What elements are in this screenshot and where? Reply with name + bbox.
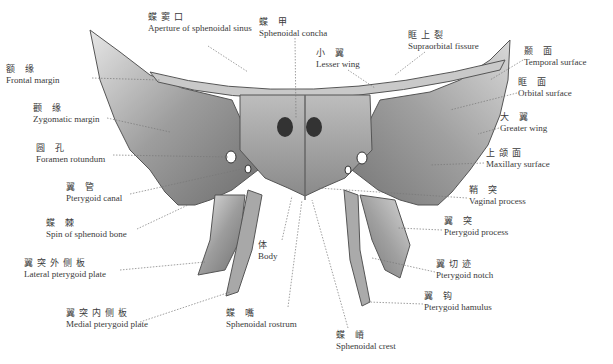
right-lateral-pterygoid-plate <box>360 195 410 278</box>
label-sphenoidal-rostrum: 蝶 嘴Sphenoidal rostrum <box>226 308 297 330</box>
label-greater-wing: 大 翼Greater wing <box>500 112 547 134</box>
label-pterygoid-notch: 翼切迹Pterygoid notch <box>436 259 493 281</box>
label-body: 体Body <box>258 240 278 262</box>
left-greater-wing <box>90 30 258 205</box>
label-foramen-rotundum: 圆 孔Foramen rotundum <box>36 143 105 165</box>
label-aperture-sphenoidal-sinus: 蝶窦口Aperture of sphenoidal sinus <box>148 12 252 34</box>
label-pterygoid-canal: 翼 管Pterygoid canal <box>66 182 122 204</box>
label-spin-of-sphenoid-bone: 蝶 棘Spin of sphenoid bone <box>46 218 127 240</box>
sphenoid-diagram: 额 缘Frontal margin 蝶窦口Aperture of sphenoi… <box>0 0 613 364</box>
label-zygomatic-margin: 颧 缘Zygomatic margin <box>33 103 100 125</box>
label-orbital-surface: 眶 面Orbital surface <box>518 77 572 99</box>
label-pterygoid-process: 翼 突Pterygoid process <box>444 216 508 238</box>
label-supraorbital-fissure: 眶上裂Supraorbital fissure <box>408 30 479 52</box>
label-maxillary-surface: 上颌面Maxillary surface <box>486 148 550 170</box>
label-vaginal-process: 鞘 突Vaginal process <box>469 185 526 207</box>
label-medial-pterygoid-plate: 翼突内侧板Medial pterygoid plate <box>66 308 148 330</box>
label-pterygoid-hamulus: 翼 钩Pterygoid hamulus <box>424 291 492 313</box>
label-frontal-margin: 额 缘Frontal margin <box>6 64 60 86</box>
label-sphenoidal-crest: 蝶 嵴Sphenoidal crest <box>336 330 396 352</box>
label-lateral-pterygoid-plate: 翼突外侧板Lateral pterygoid plate <box>24 258 106 280</box>
label-lesser-wing: 小 翼Lesser wing <box>316 48 360 70</box>
label-sphenoidal-concha: 蝶 甲Sphenoidal concha <box>259 17 327 39</box>
label-temporal-surface: 颞 面Temporal surface <box>524 46 587 68</box>
sphenoid-body <box>240 95 372 196</box>
